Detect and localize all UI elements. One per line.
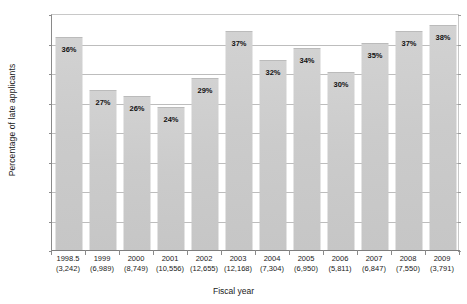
bar-slot: 37%: [222, 15, 256, 250]
x-axis-title: Fiscal year: [0, 286, 467, 296]
bar[interactable]: [328, 72, 355, 250]
bar-value-label: 37%: [392, 39, 426, 48]
bar-value-label: 34%: [290, 56, 324, 65]
x-category-label: 2009(3,791): [419, 254, 465, 274]
bar[interactable]: [90, 90, 117, 250]
bar[interactable]: [226, 31, 253, 250]
bar-slot: 36%: [52, 15, 86, 250]
bar-value-label: 27%: [86, 98, 120, 107]
bar-slot: 32%: [256, 15, 290, 250]
plot-area: 36%27%26%24%29%37%32%34%30%35%37%38%: [51, 14, 459, 250]
bar-value-label: 26%: [120, 104, 154, 113]
bar-value-label: 35%: [358, 51, 392, 60]
bar[interactable]: [124, 96, 151, 250]
bar-slot: 38%: [426, 15, 460, 250]
bar[interactable]: [260, 60, 287, 250]
bar-value-label: 32%: [256, 68, 290, 77]
y-axis-title: Percentage of late applicants: [7, 35, 17, 205]
bar-slot: 27%: [86, 15, 120, 250]
x-category-count: (3,791): [419, 264, 465, 274]
x-category-year: 2009: [419, 254, 465, 264]
bar[interactable]: [158, 107, 185, 250]
bar[interactable]: [192, 78, 219, 250]
bar[interactable]: [56, 37, 83, 250]
bar-value-label: 29%: [188, 86, 222, 95]
bar[interactable]: [362, 43, 389, 251]
bar-value-label: 37%: [222, 39, 256, 48]
bar-slot: 34%: [290, 15, 324, 250]
bar-value-label: 24%: [154, 115, 188, 124]
bar-value-label: 36%: [52, 45, 86, 54]
bar-slot: 35%: [358, 15, 392, 250]
bar-series: 36%27%26%24%29%37%32%34%30%35%37%38%: [52, 15, 458, 250]
bar-value-label: 30%: [324, 80, 358, 89]
bar-slot: 24%: [154, 15, 188, 250]
bar-slot: 30%: [324, 15, 358, 250]
bar[interactable]: [430, 25, 457, 250]
bar-slot: 26%: [120, 15, 154, 250]
bar-value-label: 38%: [426, 33, 460, 42]
bar[interactable]: [294, 48, 321, 250]
bar[interactable]: [396, 31, 423, 250]
bar-slot: 29%: [188, 15, 222, 250]
bar-chart: Percentage of late applicants 36%27%26%2…: [0, 0, 467, 304]
bar-slot: 37%: [392, 15, 426, 250]
